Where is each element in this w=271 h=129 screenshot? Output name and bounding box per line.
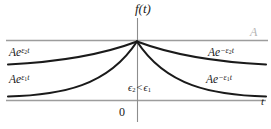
curve-label-right-slow: Ae−ε2t (208, 47, 234, 59)
curve-label-right-fast: Ae−ε1t (206, 74, 232, 86)
origin-label: 0 (119, 106, 125, 118)
parameter-ordering-annotation: ϵ2<ϵ1 (128, 83, 151, 94)
curve-right-slow (137, 42, 266, 65)
vertical-axis-title: f(t) (135, 2, 151, 15)
horizontal-axis-title: t (261, 96, 264, 107)
curve-right-fast (137, 42, 266, 97)
curve-label-left-fast: Aeε1t (9, 74, 29, 86)
asymptote-label: A (250, 26, 257, 38)
curve-label-left-slow: Aeε2t (9, 47, 29, 59)
figure-canvas (0, 0, 271, 129)
exponential-envelope-figure: f(t) A Aeε2t Aeε1t Ae−ε2t Ae−ε1t ϵ2<ϵ1 0… (0, 0, 271, 129)
